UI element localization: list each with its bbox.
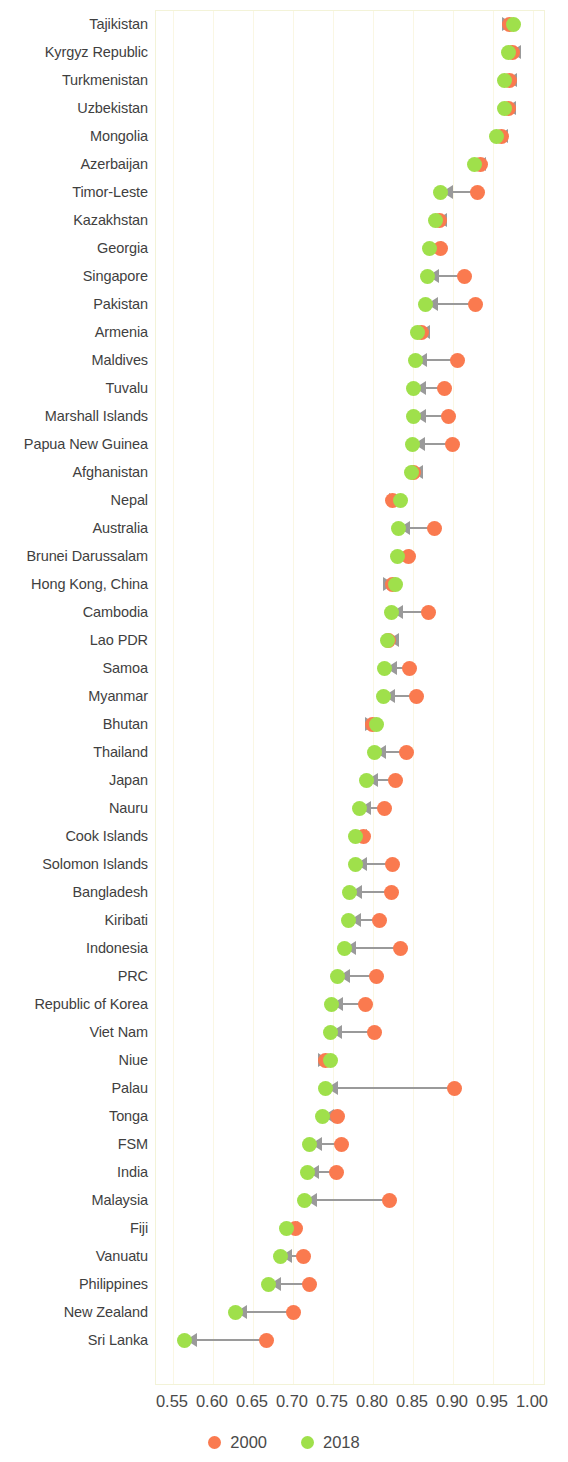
dumbbell-chart: TajikistanKyrgyz RepublicTurkmenistanUzb… [0, 0, 568, 1462]
change-connector [305, 1199, 390, 1201]
data-point-2018[interactable] [418, 297, 433, 312]
data-point-2018[interactable] [348, 829, 363, 844]
chart-row: Mongolia [0, 122, 568, 150]
data-point-2000[interactable] [334, 1137, 349, 1152]
data-point-2018[interactable] [323, 1025, 338, 1040]
data-point-2000[interactable] [450, 353, 465, 368]
data-point-2018[interactable] [408, 353, 423, 368]
data-point-2000[interactable] [358, 997, 373, 1012]
data-point-2018[interactable] [497, 101, 512, 116]
data-point-2018[interactable] [422, 241, 437, 256]
data-point-2018[interactable] [506, 17, 521, 32]
legend-item[interactable]: 2018 [301, 1433, 360, 1452]
data-point-2000[interactable] [437, 381, 452, 396]
data-point-2018[interactable] [420, 269, 435, 284]
data-point-2018[interactable] [342, 885, 357, 900]
chart-row: Azerbaijan [0, 150, 568, 178]
data-point-2018[interactable] [300, 1165, 315, 1180]
data-point-2018[interactable] [318, 1081, 333, 1096]
data-point-2000[interactable] [421, 605, 436, 620]
legend-item[interactable]: 2000 [208, 1433, 267, 1452]
data-point-2018[interactable] [297, 1193, 312, 1208]
row-label: Azerbaijan [0, 150, 148, 178]
chart-row: Tajikistan [0, 10, 568, 38]
data-point-2018[interactable] [410, 325, 425, 340]
data-point-2018[interactable] [352, 801, 367, 816]
row-label: Indonesia [0, 934, 148, 962]
chart-row: Palau [0, 1074, 568, 1102]
data-point-2018[interactable] [428, 213, 443, 228]
data-point-2000[interactable] [385, 857, 400, 872]
data-point-2018[interactable] [377, 661, 392, 676]
data-point-2000[interactable] [445, 437, 460, 452]
data-point-2000[interactable] [259, 1333, 274, 1348]
data-point-2018[interactable] [393, 493, 408, 508]
data-point-2000[interactable] [330, 1109, 345, 1124]
row-label: Hong Kong, China [0, 570, 148, 598]
data-point-2000[interactable] [367, 1025, 382, 1040]
data-point-2018[interactable] [177, 1333, 192, 1348]
data-point-2000[interactable] [286, 1305, 301, 1320]
data-point-2018[interactable] [279, 1221, 294, 1236]
row-label: Lao PDR [0, 626, 148, 654]
data-point-2000[interactable] [369, 969, 384, 984]
chart-row: Solomon Islands [0, 850, 568, 878]
x-axis: 0.550.600.650.700.750.800.850.900.951.00 [0, 1392, 568, 1418]
data-point-2000[interactable] [457, 269, 472, 284]
data-point-2018[interactable] [406, 409, 421, 424]
data-point-2000[interactable] [382, 1193, 397, 1208]
data-point-2000[interactable] [441, 409, 456, 424]
row-label: Myanmar [0, 682, 148, 710]
data-point-2000[interactable] [468, 297, 483, 312]
data-point-2000[interactable] [399, 745, 414, 760]
data-point-2000[interactable] [402, 661, 417, 676]
data-point-2000[interactable] [393, 941, 408, 956]
data-point-2018[interactable] [302, 1137, 317, 1152]
data-point-2018[interactable] [367, 745, 382, 760]
data-point-2000[interactable] [384, 885, 399, 900]
data-point-2018[interactable] [376, 689, 391, 704]
data-point-2000[interactable] [470, 185, 485, 200]
data-point-2000[interactable] [409, 689, 424, 704]
data-point-2018[interactable] [348, 857, 363, 872]
data-point-2000[interactable] [427, 521, 442, 536]
data-point-2018[interactable] [261, 1277, 276, 1292]
data-point-2000[interactable] [329, 1165, 344, 1180]
data-point-2018[interactable] [384, 605, 399, 620]
row-label: India [0, 1158, 148, 1186]
data-point-2018[interactable] [273, 1249, 288, 1264]
data-point-2018[interactable] [489, 129, 504, 144]
legend-label: 2000 [230, 1433, 267, 1452]
chart-row: Armenia [0, 318, 568, 346]
data-point-2018[interactable] [330, 969, 345, 984]
data-point-2000[interactable] [377, 801, 392, 816]
data-point-2018[interactable] [388, 577, 403, 592]
data-point-2018[interactable] [369, 717, 384, 732]
data-point-2018[interactable] [497, 73, 512, 88]
data-point-2018[interactable] [337, 941, 352, 956]
data-point-2018[interactable] [323, 1053, 338, 1068]
data-point-2018[interactable] [405, 437, 420, 452]
row-label: Malaysia [0, 1186, 148, 1214]
data-point-2018[interactable] [433, 185, 448, 200]
data-point-2018[interactable] [391, 521, 406, 536]
data-point-2018[interactable] [341, 913, 356, 928]
data-point-2018[interactable] [324, 997, 339, 1012]
data-point-2018[interactable] [228, 1305, 243, 1320]
data-point-2018[interactable] [380, 633, 395, 648]
data-point-2000[interactable] [388, 773, 403, 788]
data-point-2018[interactable] [406, 381, 421, 396]
data-point-2000[interactable] [372, 913, 387, 928]
data-point-2018[interactable] [467, 157, 482, 172]
data-point-2000[interactable] [447, 1081, 462, 1096]
data-point-2018[interactable] [404, 465, 419, 480]
row-label: Uzbekistan [0, 94, 148, 122]
row-label: Palau [0, 1074, 148, 1102]
data-point-2018[interactable] [501, 45, 516, 60]
data-point-2000[interactable] [296, 1249, 311, 1264]
data-point-2018[interactable] [315, 1109, 330, 1124]
data-point-2018[interactable] [359, 773, 374, 788]
data-point-2000[interactable] [302, 1277, 317, 1292]
chart-row: Kiribati [0, 906, 568, 934]
data-point-2018[interactable] [390, 549, 405, 564]
